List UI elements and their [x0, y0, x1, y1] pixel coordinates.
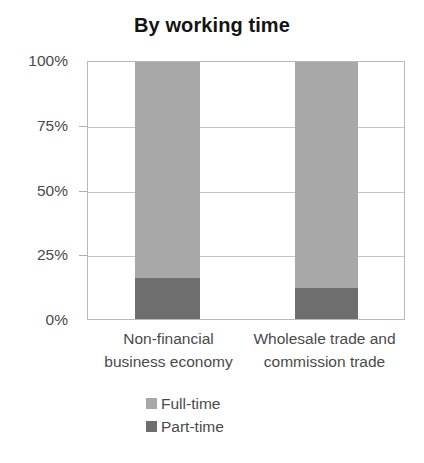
y-tick-label-100: 100%: [28, 52, 68, 70]
chart-title: By working time: [0, 14, 424, 37]
y-tick-label-50: 50%: [37, 182, 68, 200]
bar-segment-part-time[interactable]: [135, 278, 200, 319]
legend-item-full-time[interactable]: Full-time: [0, 392, 424, 415]
legend-label-full-time: Full-time: [161, 395, 220, 413]
plot-area: [87, 61, 405, 320]
chart-figure: By working time 100% 75% 50% 25% 0% Non-…: [0, 0, 424, 463]
y-tick-label-25: 25%: [37, 246, 68, 264]
y-tick-label-75: 75%: [37, 117, 68, 135]
legend-swatch-part-time-icon: [146, 421, 157, 432]
bar-segment-full-time[interactable]: [295, 62, 358, 288]
legend-label-part-time: Part-time: [161, 418, 224, 436]
x-axis: Non-financial business economy Wholesale…: [87, 327, 405, 377]
y-tick-mark-50: [79, 191, 87, 192]
bar-segment-full-time[interactable]: [135, 62, 200, 278]
bar-stack-wholesale-trade-and-commission-trade[interactable]: [295, 62, 358, 319]
y-tick-mark-25: [79, 255, 87, 256]
x-category-label-line: Wholesale trade and: [237, 327, 412, 350]
chart-legend: Full-time Part-time: [0, 392, 424, 438]
y-axis: 100% 75% 50% 25% 0%: [0, 61, 80, 320]
x-category-label-line: business economy: [81, 350, 256, 373]
x-category-label-line: commission trade: [237, 350, 412, 373]
bar-stack-non-financial-business-economy[interactable]: [135, 62, 200, 319]
y-tick-label-0: 0%: [46, 311, 68, 329]
x-category-label-wholesale-trade-and-commission-trade: Wholesale trade and commission trade: [237, 327, 412, 373]
legend-swatch-full-time-icon: [146, 398, 157, 409]
legend-item-part-time[interactable]: Part-time: [0, 415, 424, 438]
bar-segment-part-time[interactable]: [295, 288, 358, 319]
x-category-label-non-financial-business-economy: Non-financial business economy: [81, 327, 256, 373]
x-category-label-line: Non-financial: [81, 327, 256, 350]
y-tick-mark-75: [79, 126, 87, 127]
